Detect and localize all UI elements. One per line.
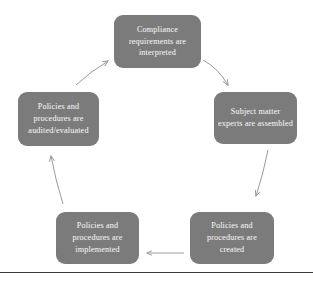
- cycle-node-label: Subject matter experts are assembled: [218, 106, 293, 130]
- page-divider-rule: [0, 272, 313, 273]
- cycle-node-label: Compliance requirements are interpreted: [118, 24, 197, 60]
- arrow-experts-to-created: [256, 150, 268, 196]
- compliance-cycle-diagram: Compliance requirements are interpreted …: [0, 0, 313, 284]
- cycle-node-label: Policies and procedures are implemented: [60, 220, 135, 256]
- cycle-node-audited: Policies and procedures are audited/eval…: [18, 92, 99, 146]
- cycle-node-label: Policies and procedures are created: [194, 220, 270, 256]
- arrow-implemented-to-audited: [51, 156, 63, 204]
- arrow-audited-to-interpreted: [76, 61, 108, 85]
- cycle-node-interpreted: Compliance requirements are interpreted: [114, 15, 201, 68]
- cycle-node-implemented: Policies and procedures are implemented: [56, 212, 139, 264]
- cycle-node-experts: Subject matter experts are assembled: [214, 92, 297, 144]
- cycle-node-label: Policies and procedures are audited/eval…: [22, 101, 95, 137]
- arrow-interpreted-to-experts: [203, 60, 228, 85]
- cycle-node-created: Policies and procedures are created: [190, 212, 274, 264]
